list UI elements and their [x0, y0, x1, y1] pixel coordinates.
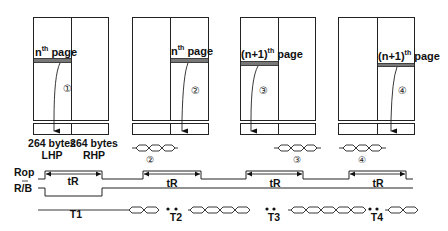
tR-label-3: tR — [269, 177, 280, 189]
step-2-label: ② — [191, 85, 200, 96]
page-label-3: (n+1)th page — [241, 47, 303, 60]
memory-block-1 — [34, 18, 109, 135]
page-label-2: nth page — [171, 44, 213, 57]
page-label-4: (n+1)th page — [378, 49, 440, 62]
lhp-size-label: 264 bytes — [28, 137, 76, 149]
tR-label-4: tR — [372, 177, 383, 189]
data-out-step-4: ④ — [358, 155, 366, 165]
data-out-symbol-4 — [339, 145, 386, 151]
period-T1: T1 — [70, 208, 82, 220]
step-4-label: ④ — [398, 85, 407, 96]
memory-block-4 — [339, 18, 415, 135]
rb-signal-label: R/B — [14, 182, 33, 194]
rhp-name-label: RHP — [83, 149, 105, 161]
memory-block-3 — [241, 18, 316, 135]
period-T3: T3 — [268, 211, 280, 223]
rop-waveform — [38, 171, 413, 179]
period-T4: T4 — [371, 211, 383, 223]
tR-label-1: tR — [67, 175, 78, 187]
page-bar-3 — [241, 62, 279, 66]
data-out-symbol-3 — [274, 145, 321, 151]
step-3-label: ③ — [259, 85, 268, 96]
data-out-symbol-2 — [132, 145, 178, 151]
rhp-size-label: 264 bytes — [70, 137, 118, 149]
data-bus-waveform — [38, 207, 418, 213]
data-out-step-2: ② — [146, 155, 154, 165]
rop-signal-label: Rop — [14, 166, 34, 178]
page-buffer-4 — [339, 124, 415, 135]
page-label-1: nth page — [35, 45, 77, 58]
period-T2: T2 — [170, 211, 182, 223]
memory-block-2 — [133, 18, 209, 135]
page-bar-1 — [34, 59, 72, 63]
tR-label-2: tR — [166, 177, 177, 189]
page-bar-2 — [171, 59, 209, 63]
page-bar-4 — [378, 64, 415, 67]
rb-waveform — [38, 188, 413, 196]
lhp-name-label: LHP — [42, 149, 63, 161]
data-out-step-3: ③ — [293, 155, 301, 165]
page-buffer-timing-diagram: nth page ① nth page ② (n+1)th page ③ (n+… — [0, 0, 448, 231]
step-1-label: ① — [63, 83, 72, 94]
